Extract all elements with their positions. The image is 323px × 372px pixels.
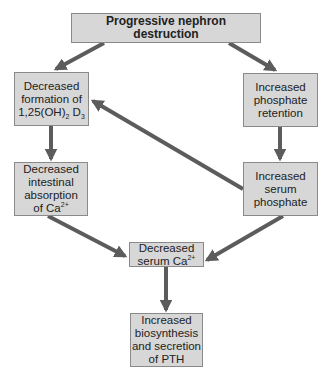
node-line: Decreased	[18, 80, 85, 93]
node-decreased-serum-calcium: Decreased serum Ca2+	[129, 242, 204, 267]
node-increased-serum-phosphate: Increased serum phosphate	[243, 162, 318, 216]
arrow-right2-to-left1	[93, 101, 243, 189]
node-line: intestinal	[23, 176, 79, 189]
arrow-top-to-right1	[229, 43, 275, 70]
node-line: Increased	[254, 81, 308, 94]
node-increased-phosphate-retention: Increased phosphate retention	[243, 73, 318, 127]
node-decreased-intestinal-absorption: Decreased intestinal absorption of Ca2+	[14, 162, 88, 216]
node-line: phosphate	[254, 196, 308, 209]
node-line: retention	[254, 107, 308, 120]
node-line: Decreased	[23, 163, 79, 176]
node-decreased-formation-vitd: Decreased formation of 1,25(OH)2 D3	[14, 72, 89, 126]
node-line: of Ca2+	[23, 202, 79, 215]
node-formula: 1,25(OH)2 D3	[18, 106, 85, 119]
node-line: formation of	[18, 93, 85, 106]
arrow-left2-to-middle	[48, 216, 125, 256]
arrow-top-to-left1	[56, 43, 104, 69]
node-increased-pth: Increased biosynthesis and secretion of …	[130, 313, 203, 367]
node-progressive-nephron-destruction: Progressive nephron destruction	[71, 13, 261, 43]
node-line: absorption	[23, 189, 79, 202]
node-line: of PTH	[132, 353, 201, 366]
node-line: serum Ca2+	[138, 255, 196, 268]
node-line: Decreased	[138, 242, 196, 255]
node-line: Increased	[132, 314, 201, 327]
node-line: and secretion	[132, 340, 201, 353]
arrow-right2-to-middle	[207, 216, 283, 260]
node-label: Progressive nephron destruction	[72, 15, 260, 41]
node-line: phosphate	[254, 94, 308, 107]
node-line: biosynthesis	[132, 327, 201, 340]
node-line: serum	[254, 183, 308, 196]
node-line: Increased	[254, 170, 308, 183]
